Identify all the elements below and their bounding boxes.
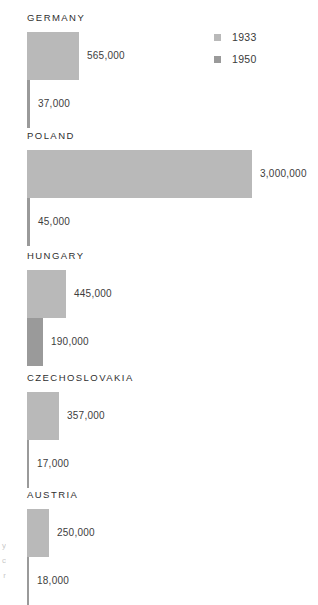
- bar-value-czechoslovakia-1950: 17,000: [37, 459, 69, 469]
- bar-value-czechoslovakia-1933: 357,000: [67, 411, 105, 421]
- clipped-edge-line-2: c: [0, 553, 6, 568]
- bar-value-austria-1933: 250,000: [57, 528, 95, 538]
- country-label-austria: AUSTRIA: [27, 490, 78, 500]
- legend-item-1933[interactable]: 1933: [214, 29, 314, 45]
- bar-poland-1950[interactable]: [27, 198, 30, 246]
- legend-label-1950: 1950: [232, 54, 257, 65]
- bar-poland-1933[interactable]: [27, 150, 252, 198]
- bar-hungary-1933[interactable]: [27, 270, 66, 318]
- clipped-edge-line-1: y: [0, 538, 6, 553]
- clipped-edge-text: y c r: [0, 538, 6, 583]
- bar-austria-1950[interactable]: [27, 557, 29, 605]
- legend-swatch-1933: [214, 34, 221, 41]
- bar-value-hungary-1933: 445,000: [74, 289, 112, 299]
- country-label-poland: POLAND: [27, 131, 75, 141]
- bar-austria-1933[interactable]: [27, 509, 49, 557]
- bar-value-germany-1950: 37,000: [38, 99, 70, 109]
- bar-value-germany-1933: 565,000: [87, 51, 125, 61]
- bar-value-hungary-1950: 190,000: [51, 337, 89, 347]
- legend-label-1933: 1933: [232, 32, 257, 43]
- clipped-edge-line-3: r: [0, 568, 6, 583]
- bar-germany-1933[interactable]: [27, 32, 79, 80]
- bar-hungary-1950[interactable]: [27, 318, 43, 366]
- legend-item-1950[interactable]: 1950: [214, 51, 314, 67]
- legend-swatch-1950: [214, 56, 221, 63]
- country-label-hungary: HUNGARY: [27, 251, 84, 261]
- bar-value-austria-1950: 18,000: [37, 576, 69, 586]
- bar-czechoslovakia-1950[interactable]: [27, 440, 29, 488]
- country-label-germany: GERMANY: [27, 13, 85, 23]
- bar-czechoslovakia-1933[interactable]: [27, 392, 59, 440]
- bar-value-poland-1933: 3,000,000: [260, 169, 307, 179]
- chart-legend: 1933 1950: [214, 29, 314, 73]
- bar-germany-1950[interactable]: [27, 80, 30, 128]
- bar-value-poland-1950: 45,000: [38, 217, 70, 227]
- country-label-czechoslovakia: CZECHOSLOVAKIA: [27, 373, 134, 383]
